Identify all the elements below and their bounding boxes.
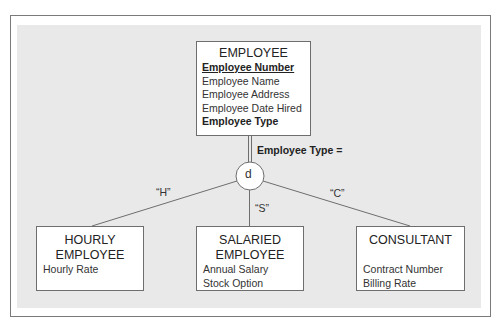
subtype-value-consultant: “C” [330,187,345,199]
disjoint-symbol: d [245,167,252,181]
attribute-employee-name: Employee Name [202,75,310,89]
entity-title: EMPLOYEE [202,46,305,61]
attribute-employee-number: Employee Number [202,61,310,75]
entity-title-line2: EMPLOYEE [203,248,297,263]
entity-title-line1: CONSULTANT [363,233,458,248]
entity-employee: EMPLOYEE Employee Number Employee Name E… [196,41,311,136]
entity-salaried-employee: SALARIED EMPLOYEE Annual Salary Stock Op… [196,226,304,291]
attribute-stock-option: Stock Option [203,277,303,291]
entity-title-line1: HOURLY [43,233,137,248]
entity-title-line2 [363,248,458,263]
attribute-employee-date-hired: Employee Date Hired [202,102,310,116]
attribute-annual-salary: Annual Salary [203,263,303,277]
attribute-employee-address: Employee Address [202,88,310,102]
entity-title-line1: SALARIED [203,233,297,248]
attribute-contract-number: Contract Number [363,263,464,277]
attribute-billing-rate: Billing Rate [363,277,464,291]
subtype-value-hourly: “H” [156,186,171,198]
discriminator-label: Employee Type = [257,144,342,156]
entity-title-line2: EMPLOYEE [43,248,137,263]
entity-hourly-employee: HOURLY EMPLOYEE Hourly Rate [36,226,144,291]
attribute-employee-type: Employee Type [202,115,310,129]
attribute-hourly-rate: Hourly Rate [43,263,143,277]
entity-consultant: CONSULTANT Contract Number Billing Rate [356,226,465,291]
subtype-value-salaried: “S” [255,202,269,214]
